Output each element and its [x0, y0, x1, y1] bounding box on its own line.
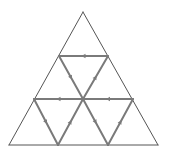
arrowhead-icon [57, 97, 61, 101]
triangle-diagram [0, 0, 174, 152]
outer-triangle [9, 12, 158, 145]
directed-path [34, 56, 133, 145]
arrowheads [43, 54, 121, 125]
arrowhead-icon [106, 97, 110, 101]
arrowhead-icon [82, 54, 86, 58]
